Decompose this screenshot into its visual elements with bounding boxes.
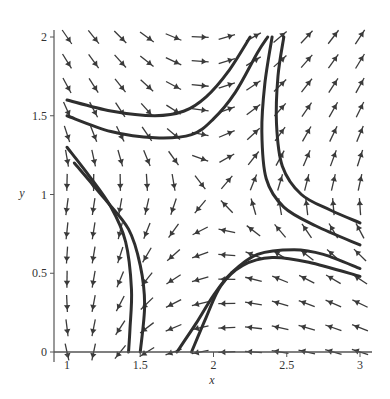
field-arrow bbox=[354, 249, 366, 261]
field-arrow bbox=[356, 78, 364, 93]
field-arrow bbox=[218, 252, 235, 258]
field-arrow bbox=[117, 174, 123, 191]
field-arrow bbox=[116, 321, 125, 335]
field-arrow bbox=[117, 247, 123, 263]
field-arrow bbox=[301, 55, 312, 68]
field-arrow bbox=[328, 30, 338, 43]
field-arrow bbox=[63, 78, 71, 93]
field-arrow bbox=[272, 324, 289, 330]
field-arrow bbox=[166, 275, 180, 284]
field-arrow bbox=[329, 102, 337, 117]
field-arrow bbox=[166, 325, 182, 332]
field-arrow bbox=[219, 227, 236, 233]
field-arrow bbox=[356, 102, 363, 117]
field-arrow bbox=[357, 174, 363, 191]
trajectory-right-2 bbox=[276, 37, 360, 223]
field-arrow bbox=[247, 226, 260, 236]
direction-field-arrows bbox=[62, 30, 368, 360]
y-tick-label: 1 bbox=[41, 188, 47, 202]
field-arrow bbox=[219, 34, 235, 40]
field-arrow bbox=[170, 199, 176, 215]
field-arrow bbox=[357, 198, 363, 215]
field-arrow bbox=[328, 54, 338, 68]
field-arrow bbox=[356, 54, 365, 69]
field-arrow bbox=[302, 224, 312, 238]
field-arrow bbox=[116, 103, 125, 117]
field-arrow bbox=[141, 298, 153, 310]
field-arrow bbox=[356, 223, 364, 238]
field-arrow bbox=[357, 126, 364, 142]
field-arrow bbox=[302, 103, 312, 117]
field-arrow bbox=[118, 150, 124, 166]
field-arrow bbox=[326, 275, 341, 284]
field-arrow bbox=[250, 174, 257, 190]
y-tick-label: 0.5 bbox=[32, 266, 47, 280]
x-axis-ticks: 11.522.53 bbox=[64, 352, 363, 372]
field-arrow bbox=[192, 277, 208, 283]
field-arrow bbox=[352, 324, 368, 331]
field-arrow bbox=[64, 174, 70, 191]
trajectory-left-2 bbox=[74, 163, 144, 352]
field-arrow bbox=[90, 102, 98, 117]
field-arrow bbox=[64, 271, 70, 288]
field-arrow bbox=[144, 150, 151, 166]
field-arrow bbox=[64, 247, 70, 264]
field-arrow bbox=[303, 150, 310, 166]
field-arrow bbox=[218, 325, 235, 331]
field-arrow bbox=[330, 126, 337, 141]
field-arrow bbox=[248, 151, 259, 164]
y-tick-label: 1.5 bbox=[32, 109, 47, 123]
field-arrow bbox=[247, 128, 259, 140]
field-arrow bbox=[219, 154, 234, 162]
field-arrow bbox=[195, 176, 205, 190]
field-arrow bbox=[114, 31, 126, 43]
field-arrow bbox=[166, 81, 181, 89]
field-arrow bbox=[326, 300, 342, 307]
field-arrow bbox=[192, 252, 208, 258]
field-arrow bbox=[143, 223, 150, 239]
field-arrow bbox=[90, 319, 96, 336]
field-arrow bbox=[329, 78, 338, 92]
y-tick-label: 0 bbox=[41, 345, 47, 359]
field-arrow bbox=[277, 174, 283, 190]
field-arrow bbox=[352, 300, 367, 307]
field-arrow bbox=[331, 174, 337, 191]
field-arrow bbox=[64, 222, 70, 239]
field-arrow bbox=[330, 150, 336, 166]
x-tick-label: 2 bbox=[211, 358, 217, 372]
field-arrow bbox=[357, 150, 363, 166]
x-tick-label: 1.5 bbox=[133, 358, 148, 372]
field-arrow bbox=[166, 300, 181, 308]
field-arrow bbox=[221, 200, 233, 212]
field-arrow bbox=[143, 248, 152, 263]
field-arrow bbox=[299, 275, 314, 283]
field-arrow bbox=[169, 151, 179, 165]
y-axis-label: y bbox=[18, 186, 25, 200]
field-arrow bbox=[62, 30, 72, 44]
field-arrow bbox=[117, 271, 124, 287]
field-arrow bbox=[90, 271, 96, 288]
field-arrow bbox=[144, 174, 150, 191]
field-arrow bbox=[90, 222, 96, 239]
field-arrow bbox=[195, 200, 206, 213]
field-arrow bbox=[355, 30, 364, 44]
field-arrow bbox=[299, 324, 315, 330]
field-arrow bbox=[64, 126, 70, 142]
field-arrow bbox=[221, 176, 232, 189]
field-arrow bbox=[219, 130, 235, 137]
field-arrow bbox=[218, 300, 235, 306]
field-arrow bbox=[64, 319, 70, 336]
field-arrow bbox=[275, 224, 286, 237]
field-arrow bbox=[115, 79, 126, 92]
field-arrow bbox=[193, 227, 208, 235]
solution-trajectories bbox=[67, 37, 360, 352]
field-arrow bbox=[91, 150, 97, 167]
field-arrow bbox=[247, 105, 261, 115]
field-arrow bbox=[192, 34, 209, 40]
x-axis-label: x bbox=[208, 373, 215, 387]
field-arrow bbox=[245, 324, 262, 330]
field-arrow bbox=[171, 174, 177, 191]
field-arrow bbox=[90, 198, 96, 215]
field-arrow bbox=[272, 300, 288, 306]
field-arrow bbox=[304, 174, 310, 190]
